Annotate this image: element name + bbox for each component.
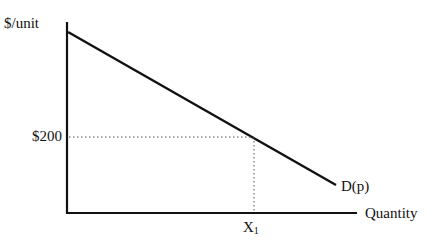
quantity-tick-label: X1 <box>243 220 259 236</box>
demand-chart: $/unit $200 D(p) Quantity X1 <box>0 0 444 247</box>
quantity-tick-subscript: 1 <box>254 225 259 236</box>
demand-curve <box>68 32 336 185</box>
x-axis-label: Quantity <box>365 206 418 221</box>
y-axis-label: $/unit <box>4 16 39 31</box>
price-tick-label: $200 <box>32 129 62 144</box>
curve-label: D(p) <box>341 179 369 194</box>
quantity-tick-main: X <box>243 219 254 235</box>
